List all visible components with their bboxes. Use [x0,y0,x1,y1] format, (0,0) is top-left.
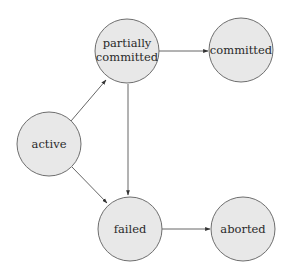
state-node-active: active [17,112,81,176]
state-node-aborted: aborted [211,197,275,261]
state-label-aborted: aborted [220,222,266,236]
state-label-active: active [32,137,67,151]
state-label-partially: partially [103,36,152,50]
edge-active-to-partially-committed [71,80,106,121]
state-label-committed-line: committed [96,50,159,64]
state-label-committed: committed [210,43,273,57]
state-node-failed: failed [98,197,162,261]
state-node-committed: committed [209,18,273,82]
state-diagram: active partially committed committed fai… [0,0,292,279]
edge-active-to-failed [72,167,107,203]
state-node-partially-committed: partially committed [95,19,159,83]
state-label-failed: failed [114,222,147,236]
